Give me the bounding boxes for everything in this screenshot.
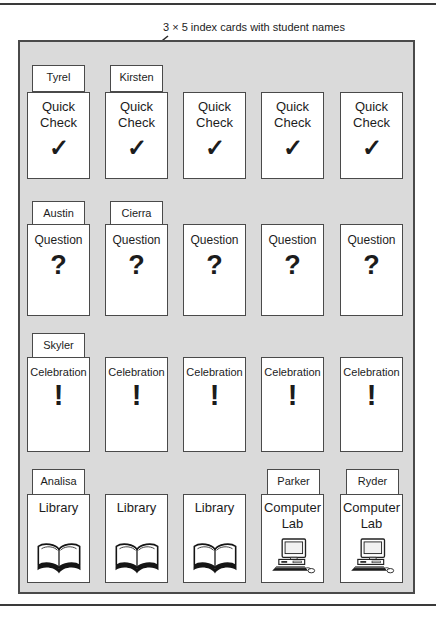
check-icon: ✓ [262, 134, 323, 162]
pocket-label: Computer Lab [262, 495, 323, 531]
pocket-card-computer-lab: Computer Lab [261, 494, 324, 583]
pocket-card-celebration: Celebration ! [27, 357, 90, 452]
pocket-label: Question [262, 225, 323, 248]
pocket-label: Celebration [28, 358, 89, 379]
student-name-tag: Parker [267, 469, 320, 496]
pocket-chart-board: Tyrel Kirsten Quick Check ✓ Quick Check … [18, 40, 415, 594]
pocket-label: Question [28, 225, 89, 248]
exclamation-mark-icon: ! [341, 379, 402, 412]
student-name-tag: Kirsten [110, 65, 163, 92]
pocket-card-question: Question ? [261, 224, 324, 316]
exclamation-mark-icon: ! [106, 379, 167, 412]
question-mark-icon: ? [262, 250, 323, 281]
pocket-card-celebration: Celebration ! [183, 357, 246, 452]
check-icon: ✓ [184, 134, 245, 162]
pocket-label: Celebration [341, 358, 402, 379]
student-name-tag: Analisa [32, 469, 85, 496]
pocket-label: Quick Check [262, 93, 323, 131]
pocket-label: Library [106, 495, 167, 516]
pocket-card-celebration: Celebration ! [261, 357, 324, 452]
pocket-label: Celebration [184, 358, 245, 379]
student-name-tag: Skyler [32, 333, 85, 360]
pocket-label: Celebration [106, 358, 167, 379]
question-mark-icon: ? [341, 250, 402, 281]
exclamation-mark-icon: ! [28, 379, 89, 412]
open-book-icon [35, 540, 83, 575]
question-mark-icon: ? [184, 250, 245, 281]
pocket-label: Library [28, 495, 89, 516]
exclamation-mark-icon: ! [184, 379, 245, 412]
pocket-card-quick-check: Quick Check ✓ [27, 92, 90, 179]
pocket-card-quick-check: Quick Check ✓ [340, 92, 403, 179]
pocket-label: Quick Check [184, 93, 245, 131]
check-icon: ✓ [106, 134, 167, 162]
pocket-label: Computer Lab [341, 495, 402, 531]
computer-icon [347, 538, 397, 575]
page-rule-top [0, 3, 436, 5]
open-book-icon [113, 540, 161, 575]
check-icon: ✓ [28, 134, 89, 162]
pocket-label: Quick Check [28, 93, 89, 131]
pocket-card-computer-lab: Computer Lab [340, 494, 403, 583]
exclamation-mark-icon: ! [262, 379, 323, 412]
pocket-card-library: Library [105, 494, 168, 583]
pocket-card-celebration: Celebration ! [105, 357, 168, 452]
computer-icon [268, 538, 318, 575]
pocket-label: Question [106, 225, 167, 248]
check-icon: ✓ [341, 134, 402, 162]
pocket-label: Question [341, 225, 402, 248]
pocket-label: Question [184, 225, 245, 248]
open-book-icon [191, 540, 239, 575]
pocket-label: Quick Check [341, 93, 402, 131]
pocket-card-celebration: Celebration ! [340, 357, 403, 452]
pocket-card-question: Question ? [27, 224, 90, 316]
pocket-card-library: Library [27, 494, 90, 583]
pocket-label: Library [184, 495, 245, 516]
pocket-label: Celebration [262, 358, 323, 379]
pocket-card-quick-check: Quick Check ✓ [105, 92, 168, 179]
question-mark-icon: ? [28, 250, 89, 281]
pocket-card-question: Question ? [105, 224, 168, 316]
pocket-card-quick-check: Quick Check ✓ [261, 92, 324, 179]
figure-page: { "colors": { "board_bg": "#dadada", "ca… [0, 0, 436, 619]
pocket-card-library: Library [183, 494, 246, 583]
student-name-tag: Ryder [346, 469, 399, 496]
page-rule-bottom [0, 604, 436, 606]
pocket-label: Quick Check [106, 93, 167, 131]
pocket-card-question: Question ? [340, 224, 403, 316]
question-mark-icon: ? [106, 250, 167, 281]
pocket-card-quick-check: Quick Check ✓ [183, 92, 246, 179]
index-cards-annotation: 3 × 5 index cards with student names [163, 21, 345, 33]
student-name-tag: Tyrel [32, 65, 85, 92]
pocket-card-question: Question ? [183, 224, 246, 316]
